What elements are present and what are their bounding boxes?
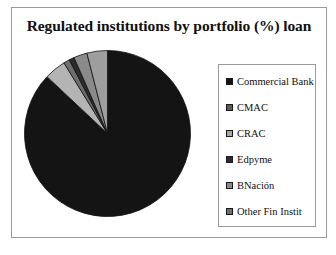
legend-swatch-icon xyxy=(226,78,233,85)
legend-swatch-icon xyxy=(226,208,233,215)
legend-swatch-icon xyxy=(226,182,233,189)
legend-item[interactable]: Commercial Bank xyxy=(226,75,314,87)
legend-item-label: Commercial Bank xyxy=(237,76,314,87)
pie-chart xyxy=(23,49,192,218)
legend-item[interactable]: CRAC xyxy=(226,127,266,139)
legend-item-label: CRAC xyxy=(237,128,266,139)
legend-item[interactable]: BNación xyxy=(226,179,274,191)
legend-item-label: CMAC xyxy=(237,102,268,113)
chart-legend: Commercial BankCMACCRACEdpymeBNaciónOthe… xyxy=(218,64,316,227)
legend-item-label: BNación xyxy=(237,180,274,191)
legend-swatch-icon xyxy=(226,130,233,137)
legend-item-label: Other Fin Instit xyxy=(237,206,302,217)
pie-svg xyxy=(23,49,192,218)
pie-slices xyxy=(25,51,191,217)
legend-swatch-icon xyxy=(226,156,233,163)
chart-title: Regulated institutions by portfolio (%) … xyxy=(12,17,326,35)
legend-item[interactable]: CMAC xyxy=(226,101,268,113)
legend-item[interactable]: Other Fin Instit xyxy=(226,205,302,217)
legend-item-label: Edpyme xyxy=(237,154,272,165)
legend-item[interactable]: Edpyme xyxy=(226,153,272,165)
legend-swatch-icon xyxy=(226,104,233,111)
chart-figure: Regulated institutions by portfolio (%) … xyxy=(11,7,327,238)
